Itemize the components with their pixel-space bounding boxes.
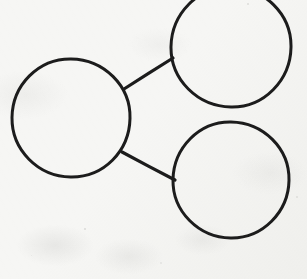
- drawing-canvas: [0, 0, 307, 279]
- top-right-circle-node: [171, 0, 291, 107]
- edge-left-to-bottom-right-line: [122, 152, 175, 180]
- node-layer: [12, 0, 291, 238]
- left-circle-node: [12, 59, 130, 177]
- hand-drawn-diagram: [0, 0, 307, 279]
- edge-left-to-top-right-line: [124, 58, 173, 89]
- bottom-right-circle-node: [173, 122, 289, 238]
